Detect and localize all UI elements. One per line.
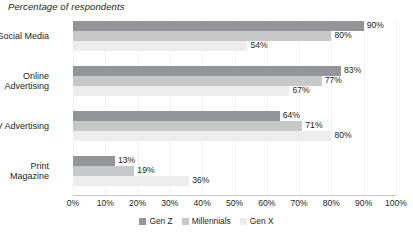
bar-row: 13%	[73, 156, 396, 166]
bar-value-label: 19%	[134, 165, 154, 175]
bar-millennials[interactable]	[73, 76, 322, 86]
bar-group: 64%71%80%TV Advertising	[73, 111, 396, 141]
category-label-line: Print	[0, 161, 49, 172]
bar-gen-x[interactable]	[73, 131, 331, 141]
x-tick-label: 100%	[385, 198, 407, 208]
bar-value-label: 54%	[247, 40, 267, 50]
category-label: Social Media	[0, 31, 49, 42]
bar-gen-z[interactable]	[73, 66, 341, 76]
bar-row: 54%	[73, 41, 396, 51]
category-label: TV Advertising	[0, 121, 49, 132]
chart-legend: Gen ZMillennialsGen X	[0, 216, 413, 226]
x-tick-label: 90%	[355, 198, 372, 208]
bar-row: 64%	[73, 111, 396, 121]
x-tick-label: 40%	[194, 198, 211, 208]
bar-row: 80%	[73, 31, 396, 41]
category-label: OnlineAdvertising	[0, 71, 49, 92]
gridline	[396, 19, 397, 195]
legend-item-gen-x[interactable]: Gen X	[240, 216, 274, 226]
legend-label: Gen X	[250, 216, 274, 226]
bar-row: 67%	[73, 86, 396, 96]
x-tick-label: 80%	[323, 198, 340, 208]
bar-millennials[interactable]	[73, 166, 134, 176]
bar-chart: Percentage of respondents 90%80%54%Socia…	[0, 0, 413, 243]
plot-area: 90%80%54%Social Media83%77%67%OnlineAdve…	[73, 19, 396, 195]
x-tick-label: 60%	[258, 198, 275, 208]
bar-value-label: 80%	[331, 130, 351, 140]
bar-millennials[interactable]	[73, 121, 302, 131]
x-tick-label: 30%	[161, 198, 178, 208]
bar-row: 19%	[73, 166, 396, 176]
bar-value-label: 77%	[322, 75, 342, 85]
bar-gen-z[interactable]	[73, 111, 280, 121]
bar-gen-z[interactable]	[73, 21, 364, 31]
legend-item-millennials[interactable]: Millennials	[182, 216, 231, 226]
bar-row: 77%	[73, 76, 396, 86]
bar-value-label: 71%	[302, 120, 322, 130]
bar-gen-z[interactable]	[73, 156, 115, 166]
bar-value-label: 90%	[364, 20, 384, 30]
bar-gen-x[interactable]	[73, 176, 189, 186]
legend-item-gen-z[interactable]: Gen Z	[139, 216, 172, 226]
category-label-line: Online	[0, 71, 49, 82]
x-tick-label: 70%	[290, 198, 307, 208]
bar-millennials[interactable]	[73, 31, 331, 41]
x-tick-label: 20%	[129, 198, 146, 208]
x-tick-label: 0%	[67, 198, 79, 208]
legend-swatch	[182, 218, 189, 225]
bar-value-label: 13%	[115, 155, 135, 165]
bar-gen-x[interactable]	[73, 86, 289, 96]
x-axis-ticks: 0%10%20%30%40%50%60%70%80%90%100%	[73, 198, 396, 212]
x-tick-label: 50%	[226, 198, 243, 208]
category-label: PrintMagazine	[0, 161, 49, 182]
category-label-line: Advertising	[0, 81, 49, 92]
bar-row: 83%	[73, 66, 396, 76]
bar-value-label: 64%	[280, 110, 300, 120]
bar-group: 13%19%36%PrintMagazine	[73, 156, 396, 186]
bar-gen-x[interactable]	[73, 41, 247, 51]
bar-group: 83%77%67%OnlineAdvertising	[73, 66, 396, 96]
category-label-line: Magazine	[0, 171, 49, 182]
bar-value-label: 80%	[331, 30, 351, 40]
legend-label: Millennials	[192, 216, 231, 226]
legend-swatch	[240, 218, 247, 225]
legend-swatch	[139, 218, 146, 225]
category-label-line: Social Media	[0, 31, 49, 42]
bar-value-label: 67%	[289, 85, 309, 95]
bar-value-label: 83%	[341, 65, 361, 75]
category-label-line: TV Advertising	[0, 121, 49, 132]
chart-title: Percentage of respondents	[8, 1, 125, 12]
bar-row: 80%	[73, 131, 396, 141]
bar-group: 90%80%54%Social Media	[73, 21, 396, 51]
bar-row: 36%	[73, 176, 396, 186]
x-axis-line	[73, 195, 396, 196]
x-tick-label: 10%	[97, 198, 114, 208]
bar-value-label: 36%	[189, 175, 209, 185]
legend-label: Gen Z	[149, 216, 172, 226]
